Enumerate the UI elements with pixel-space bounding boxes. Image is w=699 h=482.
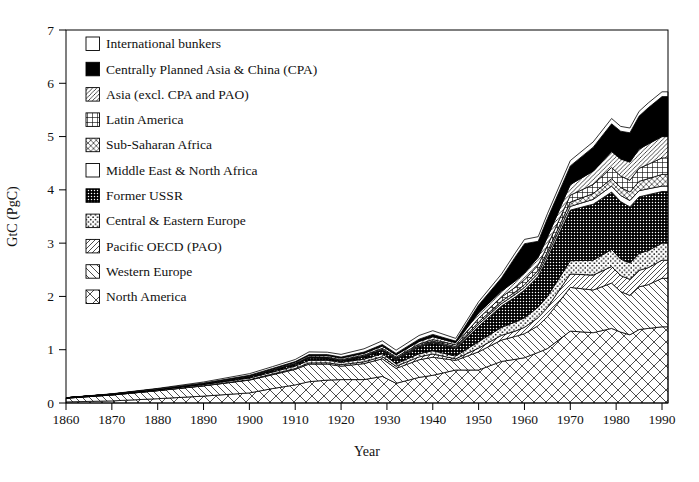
legend-swatch-ssa-icon: [86, 138, 100, 152]
legend-item-cee: Central & Eastern Europe: [86, 213, 246, 228]
legend-swatch-pao-icon: [86, 239, 100, 253]
legend-item-pao: Pacific OECD (PAO): [86, 239, 222, 254]
legend-label-la: Latin America: [106, 112, 184, 127]
x-tick-label: 1990: [649, 412, 676, 427]
x-tick-label: 1890: [190, 412, 217, 427]
y-tick-label: 7: [47, 23, 54, 38]
x-tick-label: 1880: [144, 412, 171, 427]
legend-label-me: Middle East & North Africa: [106, 163, 257, 178]
y-tick-label: 1: [47, 342, 54, 357]
legend-swatch-we-icon: [86, 265, 100, 279]
x-tick-label: 1950: [465, 412, 492, 427]
x-tick-label: 1980: [603, 412, 630, 427]
legend-item-bunk: International bunkers: [86, 36, 221, 51]
legend-swatch-cee-icon: [86, 214, 100, 228]
legend-item-ssa: Sub-Saharan Africa: [86, 137, 212, 152]
legend-swatch-na-icon: [86, 290, 100, 304]
stacked-area-chart: 1860187018801890190019101920193019401950…: [0, 0, 699, 482]
x-tick-label: 1910: [282, 412, 309, 427]
legend-item-me: Middle East & North Africa: [86, 163, 257, 178]
x-tick-label: 1900: [236, 412, 263, 427]
legend-item-na: North America: [86, 289, 187, 304]
legend-swatch-bunk-icon: [86, 37, 100, 51]
legend-item-la: Latin America: [86, 112, 184, 127]
legend-item-cpa: Centrally Planned Asia & China (CPA): [86, 62, 317, 77]
legend-swatch-cpa-icon: [86, 62, 100, 76]
x-tick-label: 1930: [373, 412, 400, 427]
y-tick-label: 6: [47, 76, 54, 91]
legend-label-we: Western Europe: [106, 264, 192, 279]
legend-swatch-me-icon: [86, 164, 100, 178]
legend-swatch-asia-icon: [86, 88, 100, 102]
legend-item-we: Western Europe: [86, 264, 192, 279]
emissions-chart-figure: 1860187018801890190019101920193019401950…: [0, 0, 699, 482]
x-axis-title: Year: [354, 444, 380, 459]
legend-label-cpa: Centrally Planned Asia & China (CPA): [106, 62, 317, 77]
y-tick-label: 5: [47, 129, 54, 144]
legend-label-ussr: Former USSR: [106, 188, 183, 203]
legend-swatch-la-icon: [86, 113, 100, 127]
x-tick-label: 1940: [419, 412, 446, 427]
legend-item-asia: Asia (excl. CPA and PAO): [86, 87, 249, 102]
legend-swatch-ussr-icon: [86, 189, 100, 203]
legend: International bunkersCentrally Planned A…: [86, 36, 317, 304]
legend-label-na: North America: [106, 289, 187, 304]
legend-label-asia: Asia (excl. CPA and PAO): [106, 87, 249, 102]
x-tick-label: 1960: [511, 412, 538, 427]
legend-item-ussr: Former USSR: [86, 188, 183, 203]
y-axis-title: GtC (PgC): [5, 186, 21, 247]
x-tick-label: 1870: [98, 412, 125, 427]
legend-label-bunk: International bunkers: [106, 36, 221, 51]
y-tick-label: 4: [47, 182, 54, 197]
y-tick-label: 2: [47, 289, 54, 304]
y-tick-label: 0: [47, 396, 54, 411]
x-tick-label: 1860: [53, 412, 80, 427]
legend-label-ssa: Sub-Saharan Africa: [106, 137, 212, 152]
legend-label-pao: Pacific OECD (PAO): [106, 239, 222, 254]
x-tick-label: 1920: [328, 412, 355, 427]
y-tick-label: 3: [47, 236, 54, 251]
legend-label-cee: Central & Eastern Europe: [106, 213, 246, 228]
x-tick-label: 1970: [557, 412, 584, 427]
